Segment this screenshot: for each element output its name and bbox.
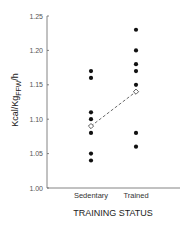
y-axis-title-suffix: /h <box>10 73 20 81</box>
y-tick-label: 1.20 <box>29 47 43 54</box>
data-point <box>89 158 93 162</box>
data-point <box>89 69 93 73</box>
data-point <box>134 131 138 135</box>
x-tick-label: Sedentary <box>74 191 108 200</box>
data-point <box>89 117 93 121</box>
mean-marker <box>133 89 138 94</box>
y-tick-label: 1.25 <box>29 13 43 20</box>
data-point <box>134 48 138 52</box>
y-axis-title-main: Kcal/Kg <box>10 96 20 127</box>
data-point <box>134 83 138 87</box>
data-point <box>134 69 138 73</box>
y-tick-label: 1.00 <box>29 185 43 192</box>
y-tick-label: 1.15 <box>29 81 43 88</box>
y-tick-label: 1.10 <box>29 116 43 123</box>
scatter-chart: 1.001.051.101.151.201.25SedentaryTrained… <box>0 0 192 227</box>
x-axis-title: TRAINING STATUS <box>73 208 153 218</box>
mean-dashed-line <box>91 92 136 126</box>
y-axis-title: Kcal/KgFFW/h <box>10 73 22 127</box>
data-point <box>134 28 138 32</box>
data-point <box>89 76 93 80</box>
x-tick-label: Trained <box>123 191 148 200</box>
data-point <box>89 131 93 135</box>
data-point <box>134 145 138 149</box>
data-point <box>134 62 138 66</box>
data-point <box>89 152 93 156</box>
y-axis-title-sub: FFW <box>15 80 22 96</box>
data-point <box>89 110 93 114</box>
y-tick-label: 1.05 <box>29 150 43 157</box>
